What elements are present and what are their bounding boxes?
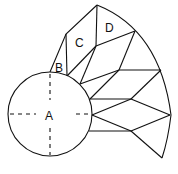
label-a: A <box>45 109 53 123</box>
geometry-diagram: A B C D <box>0 0 178 174</box>
label-b: B <box>55 61 63 75</box>
label-c: C <box>75 36 84 50</box>
label-d: D <box>105 21 114 35</box>
